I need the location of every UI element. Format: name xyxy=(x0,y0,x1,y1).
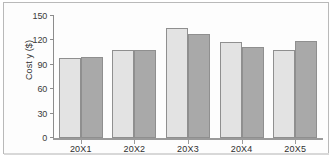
bar xyxy=(81,57,103,138)
bar xyxy=(188,34,210,138)
x-tick-label: 20X3 xyxy=(158,144,218,154)
bar-group xyxy=(220,16,264,138)
plot-region xyxy=(54,16,322,138)
x-tick-label: 20X5 xyxy=(265,144,325,154)
bar-group xyxy=(273,16,317,138)
y-tick: 0 xyxy=(4,133,54,143)
bar-chart: Cost y ($) 0306090120150 20X120X220X320X… xyxy=(4,3,330,155)
bar xyxy=(166,28,188,138)
x-tick-label: 20X2 xyxy=(104,144,164,154)
y-tick-label: 120 xyxy=(33,35,47,45)
y-tick-label: 0 xyxy=(42,133,47,143)
x-tick-label: 20X1 xyxy=(51,144,111,154)
bar-group xyxy=(112,16,156,138)
bar xyxy=(242,47,264,138)
bar-group xyxy=(166,16,210,138)
y-tick: 150 xyxy=(4,11,54,21)
bar xyxy=(295,41,317,138)
y-tick: 90 xyxy=(4,60,54,70)
y-tick: 30 xyxy=(4,109,54,119)
y-tick-label: 90 xyxy=(37,60,47,70)
bar xyxy=(59,58,81,138)
y-tick-label: 60 xyxy=(37,84,47,94)
y-tick-label: 150 xyxy=(33,11,47,21)
bar xyxy=(220,42,242,138)
x-tick-label: 20X4 xyxy=(212,144,272,154)
bar xyxy=(134,50,156,138)
figure-frame: Cost y ($) 0306090120150 20X120X220X320X… xyxy=(3,2,329,154)
y-tick: 60 xyxy=(4,84,54,94)
bar xyxy=(273,50,295,138)
y-tick-label: 30 xyxy=(37,109,47,119)
y-tick: 120 xyxy=(4,35,54,45)
bar-group xyxy=(59,16,103,138)
bar xyxy=(112,50,134,138)
